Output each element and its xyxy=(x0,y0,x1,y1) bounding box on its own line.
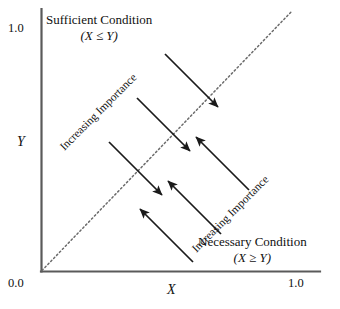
x-axis-title: X xyxy=(167,282,176,298)
sufficient-condition-annotation: Sufficient Condition (X ≤ Y) xyxy=(46,13,152,44)
x-axis-max-tick-label: 1.0 xyxy=(288,276,304,290)
necessary-condition-expression: (X ≥ Y) xyxy=(198,251,307,266)
condition-quadrant-diagram: 1.0 0.0 1.0 Y X Sufficient Condition (X … xyxy=(0,0,340,309)
sufficient-condition-expression: (X ≤ Y) xyxy=(46,29,152,44)
sufficient-arrow-3 xyxy=(109,142,162,195)
sufficient-arrow-1 xyxy=(165,54,218,107)
necessary-arrow-1 xyxy=(196,137,249,190)
y-axis-max-tick-label: 1.0 xyxy=(8,21,24,35)
sufficient-condition-title: Sufficient Condition xyxy=(46,12,152,27)
origin-tick-label: 0.0 xyxy=(8,276,24,290)
identity-diagonal-line xyxy=(42,11,292,271)
y-axis-title: Y xyxy=(17,134,25,150)
necessary-arrow-3 xyxy=(140,209,193,262)
